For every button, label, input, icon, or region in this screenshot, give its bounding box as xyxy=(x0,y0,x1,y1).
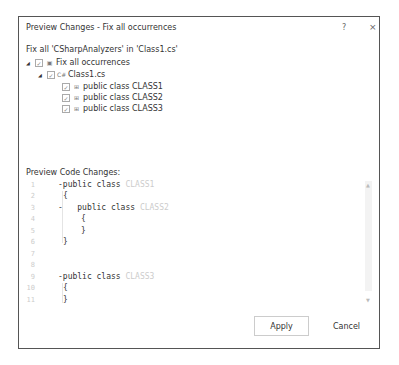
tree-item-file[interactable]: ◢ ✓ C# Class1.cs xyxy=(38,69,105,80)
tree-item-class3[interactable]: ✓ ⊞ public class CLASS3 xyxy=(62,103,163,114)
class-icon: ⊞ xyxy=(72,94,81,102)
code-line: - public class CLASS2 xyxy=(58,203,169,212)
code-line: } xyxy=(81,226,86,235)
tree-label: public class CLASS2 xyxy=(83,93,163,102)
csharp-file-icon: C# xyxy=(57,71,66,79)
dialog-title: Preview Changes - Fix all occurrences xyxy=(26,23,176,32)
class-icon: ⊞ xyxy=(72,105,81,113)
fix-all-description: Fix all 'CSharpAnalyzers' in 'Class1.cs' xyxy=(26,45,178,54)
tree-item-class1[interactable]: ✓ ⊞ public class CLASS1 xyxy=(62,81,163,92)
indent-guide xyxy=(62,283,63,303)
checkbox[interactable]: ✓ xyxy=(47,71,55,79)
tree-item-fix-all[interactable]: ◢ ✓ ▣ Fix all occurrences xyxy=(26,57,130,68)
line-number: 2 xyxy=(19,192,35,200)
cancel-button[interactable]: Cancel xyxy=(319,316,374,336)
line-number: 10 xyxy=(19,284,35,292)
line-number: 4 xyxy=(19,215,35,223)
checkbox[interactable]: ✓ xyxy=(62,105,70,113)
tree-label: public class CLASS3 xyxy=(83,104,163,113)
close-button[interactable]: × xyxy=(369,22,377,32)
scroll-up-icon[interactable]: ▲ xyxy=(366,182,370,188)
apply-button[interactable]: Apply xyxy=(254,316,309,336)
indent-guide xyxy=(62,191,63,243)
code-line: { xyxy=(63,283,68,292)
code-line: { xyxy=(81,214,86,223)
checkbox[interactable]: ✓ xyxy=(35,59,43,67)
code-line: -public class CLASS1 xyxy=(58,180,154,189)
help-button[interactable]: ? xyxy=(342,23,346,32)
tree-item-class2[interactable]: ✓ ⊞ public class CLASS2 xyxy=(62,92,163,103)
line-number: 7 xyxy=(19,250,35,258)
tree-label: Fix all occurrences xyxy=(56,58,130,67)
line-number: 3 xyxy=(19,204,35,212)
code-line: } xyxy=(63,295,68,304)
tree-label: Class1.cs xyxy=(68,70,105,79)
vertical-scrollbar[interactable] xyxy=(365,181,372,291)
code-line: } xyxy=(63,237,68,246)
expand-arrow-icon[interactable]: ◢ xyxy=(26,60,35,66)
code-line: { xyxy=(63,191,68,200)
line-number: 5 xyxy=(19,227,35,235)
line-number: 1 xyxy=(19,181,35,189)
line-number: 6 xyxy=(19,238,35,246)
checkbox[interactable]: ✓ xyxy=(62,94,70,102)
fix-icon: ▣ xyxy=(45,59,54,67)
class-icon: ⊞ xyxy=(72,83,81,91)
checkbox[interactable]: ✓ xyxy=(62,83,70,91)
preview-changes-dialog: Preview Changes - Fix all occurrences ? … xyxy=(18,16,380,349)
tree-label: public class CLASS1 xyxy=(83,82,163,91)
line-number: 11 xyxy=(19,296,35,304)
scroll-down-icon[interactable]: ▼ xyxy=(366,297,370,303)
line-number: 9 xyxy=(19,273,35,281)
code-line: -public class CLASS3 xyxy=(58,272,154,281)
expand-arrow-icon[interactable]: ◢ xyxy=(38,72,47,78)
preview-code-label: Preview Code Changes: xyxy=(26,168,120,177)
line-number: 8 xyxy=(19,261,35,269)
